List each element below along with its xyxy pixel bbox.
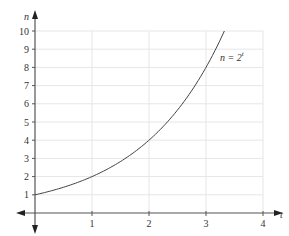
y-tick-label: 3 xyxy=(24,153,29,164)
y-tick-label: 5 xyxy=(24,117,29,128)
y-tick-label: 8 xyxy=(24,62,29,73)
y-tick-label: 9 xyxy=(24,44,29,55)
y-axis-label: n xyxy=(24,11,29,22)
y-tick-label: 2 xyxy=(24,171,29,182)
x-axis-arrow-left-icon xyxy=(16,210,25,216)
x-tick-label: 3 xyxy=(204,218,209,229)
equation-base: n = 2 xyxy=(220,52,242,63)
y-axis-arrow-up-icon xyxy=(32,10,38,19)
x-tick-label: 2 xyxy=(147,218,152,229)
y-tick-label: 10 xyxy=(19,26,29,37)
y-tick-label: 7 xyxy=(24,80,29,91)
curve-equation-label: n = 2t xyxy=(220,50,245,63)
y-tick-label: 1 xyxy=(24,189,29,200)
y-tick-label: 6 xyxy=(24,98,29,109)
y-tick-label: 4 xyxy=(24,135,29,146)
x-axis-label: t xyxy=(280,209,283,220)
x-tick-label: 1 xyxy=(90,218,95,229)
equation-exponent: t xyxy=(242,50,245,58)
y-axis-arrow-down-icon xyxy=(32,225,38,234)
x-tick-label: 4 xyxy=(261,218,266,229)
exponential-chart: 123456789101234 t n n = 2t xyxy=(0,0,289,236)
curve-n-equals-2-pow-t xyxy=(35,31,224,195)
